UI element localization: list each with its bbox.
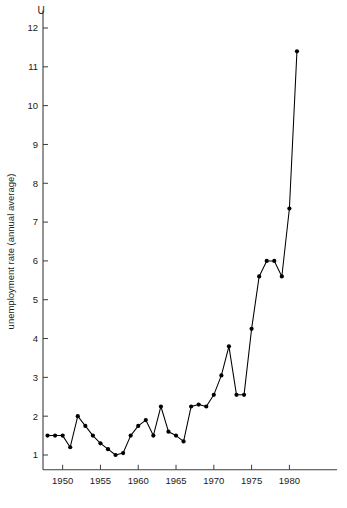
- x-tick-label: 1975: [241, 475, 262, 486]
- data-series-line: [48, 51, 297, 455]
- x-tick-label: 1960: [128, 475, 149, 486]
- y-tick-label: 4: [33, 333, 38, 344]
- y-axis-title: unemployment rate (annual average): [5, 174, 16, 330]
- data-point: [98, 441, 102, 445]
- x-tick-label: 1965: [165, 475, 186, 486]
- data-point: [212, 393, 216, 397]
- x-tick-label: 1970: [203, 475, 224, 486]
- y-tick-label: 11: [28, 61, 38, 72]
- y-tick-label: 12: [27, 22, 38, 33]
- data-point: [219, 373, 223, 377]
- chart-axes: [43, 11, 337, 470]
- data-point: [287, 206, 291, 210]
- data-point: [197, 402, 201, 406]
- data-point: [280, 274, 284, 278]
- data-point: [174, 433, 178, 437]
- data-point: [295, 49, 299, 53]
- y-tick-label: 5: [33, 294, 38, 305]
- data-point: [53, 433, 57, 437]
- data-point: [61, 433, 65, 437]
- data-point: [129, 433, 133, 437]
- data-point: [242, 393, 246, 397]
- chart-tick-marks: [43, 28, 289, 470]
- unemployment-line-chart: 123456789101112 195019551960196519701975…: [0, 0, 347, 508]
- data-point: [136, 424, 140, 428]
- data-point: [265, 259, 269, 263]
- data-point-markers: [45, 49, 299, 457]
- y-axis-label-text: unemployment rate (annual average): [5, 174, 16, 330]
- data-point: [257, 274, 261, 278]
- data-point: [45, 433, 49, 437]
- corner-label-text: U: [37, 5, 44, 16]
- chart-figure: 123456789101112 195019551960196519701975…: [0, 0, 347, 508]
- y-tick-label: 9: [33, 139, 38, 150]
- data-point: [227, 344, 231, 348]
- x-tick-label: 1980: [279, 475, 300, 486]
- data-point: [68, 445, 72, 449]
- y-tick-label: 2: [33, 411, 38, 422]
- data-point: [76, 414, 80, 418]
- y-tick-label: 10: [27, 100, 38, 111]
- data-point: [250, 327, 254, 331]
- data-point: [113, 453, 117, 457]
- x-tick-label: 1955: [90, 475, 111, 486]
- data-point: [272, 259, 276, 263]
- data-point: [204, 404, 208, 408]
- data-point: [166, 430, 170, 434]
- data-point: [151, 433, 155, 437]
- data-point: [234, 393, 238, 397]
- data-point: [189, 404, 193, 408]
- y-axis-tick-labels: 123456789101112: [27, 22, 38, 460]
- y-tick-label: 3: [33, 372, 38, 383]
- series-path: [48, 51, 297, 455]
- data-point: [91, 433, 95, 437]
- corner-label-u: U: [37, 5, 44, 16]
- data-point: [181, 439, 185, 443]
- data-point: [159, 404, 163, 408]
- data-point: [106, 447, 110, 451]
- x-axis-tick-labels: 1950195519601965197019751980: [52, 475, 300, 486]
- y-tick-label: 8: [33, 178, 38, 189]
- data-point: [144, 418, 148, 422]
- y-tick-label: 1: [33, 449, 38, 460]
- data-point: [83, 424, 87, 428]
- data-point: [121, 451, 125, 455]
- x-tick-label: 1950: [52, 475, 73, 486]
- y-tick-label: 7: [33, 216, 38, 227]
- y-tick-label: 6: [33, 255, 38, 266]
